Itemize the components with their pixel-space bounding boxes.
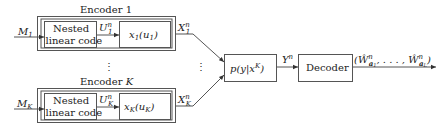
system-diagram: Encoder 1 M1 Nested linear code Un1 x1(u… [0,0,446,133]
channel: p(y|xK) [225,55,277,82]
encoder-1-title: Encoder 1 [80,4,132,15]
encoder-1-nested-line2: linear code [46,35,103,46]
encoder-k-nested-line1: Nested [53,95,90,106]
encoder-k-title: Encoder K [80,76,134,87]
vdots-right: ⋮ [196,61,206,72]
channel-output-label: Yn [282,53,294,65]
vdots-left: ⋮ [104,61,114,72]
decoder: Decoder [299,55,353,82]
decoder-output-label: (Ŵna1, . . . , ŴnaL) [354,53,431,68]
decoder-label: Decoder [306,62,349,73]
encoder-k-nested-line2: linear code [46,107,103,118]
encoder-1-nested-line1: Nested [53,23,90,34]
encoder-1: Encoder 1 M1 Nested linear code Un1 x1(u… [14,4,224,62]
encoder-k: Encoder K MK Nested linear code UnK xK(u… [14,75,224,123]
encoder-1-x-arrow [175,34,224,62]
